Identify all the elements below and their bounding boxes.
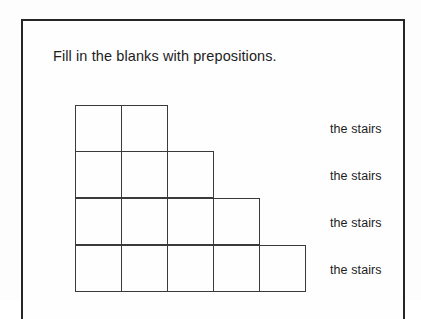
stair-cell: [75, 198, 122, 245]
worksheet-frame: Fill in the blanks with prepositions.: [21, 19, 405, 319]
stair-cell: [121, 105, 168, 152]
stair-row: [75, 152, 213, 199]
stair-cell: [167, 151, 214, 198]
answer-line-label: the stairs: [330, 105, 382, 152]
answer-label-column: the stairs the stairs the stairs the sta…: [330, 105, 421, 295]
answer-line-label: the stairs: [330, 152, 382, 199]
stair-cell: [121, 245, 168, 292]
stair-cell: [121, 151, 168, 198]
stair-cell: [167, 245, 214, 292]
stair-row: [75, 246, 305, 293]
staircase-diagram: [75, 105, 315, 295]
stair-cell: [75, 105, 122, 152]
instruction-text: Fill in the blanks with prepositions.: [53, 47, 277, 65]
stair-cell: [75, 245, 122, 292]
stair-row: [75, 199, 259, 246]
stair-cell: [75, 151, 122, 198]
stair-cell: [213, 245, 260, 292]
stair-row: [75, 105, 167, 152]
stair-cell: [167, 198, 214, 245]
stair-cell: [121, 198, 168, 245]
stair-cell: [213, 198, 260, 245]
stair-cell: [259, 245, 306, 292]
answer-line-label: the stairs: [330, 246, 382, 293]
answer-line-label: the stairs: [330, 199, 382, 246]
